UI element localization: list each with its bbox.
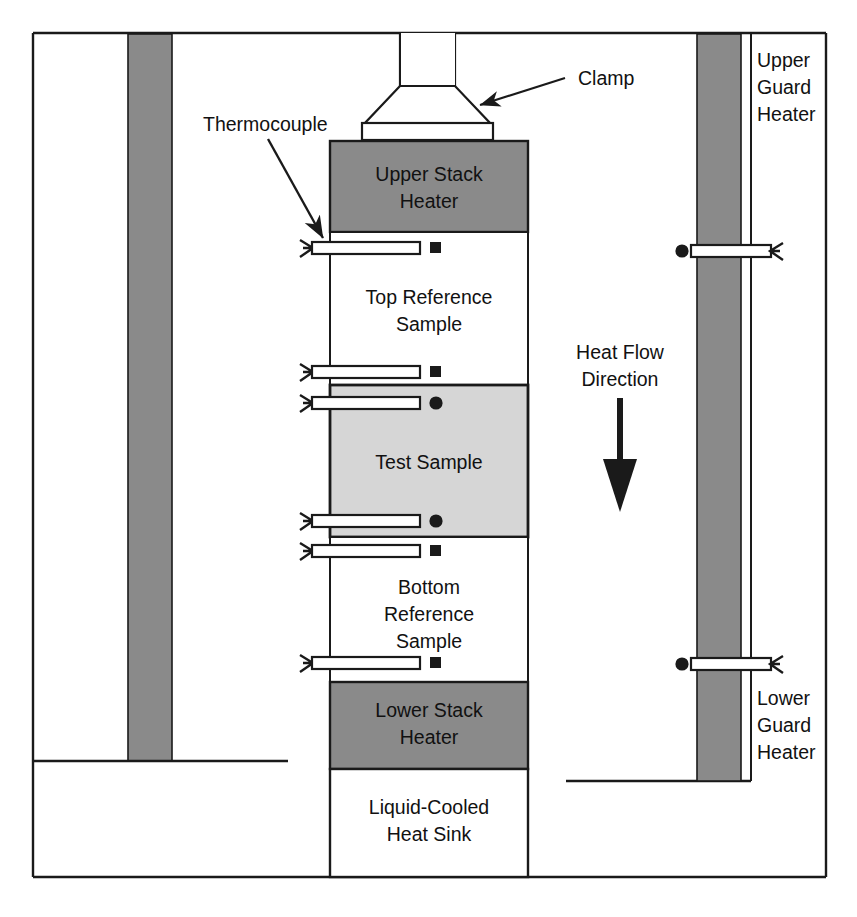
thermocouple-marker-square [430, 657, 441, 668]
thermocouple-tc-1 [300, 240, 441, 257]
thermocouple-marker-square [430, 366, 441, 377]
thermocouple-probe-body [691, 658, 771, 670]
upper-stack-heater-label-line1: Upper Stack [375, 163, 483, 185]
top-reference-sample-label-line2: Sample [396, 313, 462, 335]
heat-flow-label-line1: Heat Flow [576, 341, 665, 363]
lower-guard-heater-label: Lower Guard Heater [757, 687, 816, 763]
thermocouple-tc-guard-lower [675, 656, 783, 673]
lower-stack-heater-label-line1: Lower Stack [375, 699, 483, 721]
thermocouple-marker-circle [429, 514, 442, 527]
test-sample-label-line1: Test Sample [375, 451, 482, 473]
thermal-stack-diagram: Clamp Upper Stack Heater Top Reference S… [0, 0, 857, 917]
thermocouple-marker-square [430, 242, 441, 253]
upper-guard-heater-label-line3: Heater [757, 103, 816, 125]
thermocouple-probe-body [312, 657, 420, 669]
clamp-base-plate [362, 123, 493, 140]
thermocouple-tc-guard-upper [675, 243, 783, 260]
bottom-reference-sample-label-line1: Bottom [398, 576, 460, 598]
thermocouple-probe-body [312, 366, 420, 378]
thermocouple-probe-body [312, 397, 420, 409]
thermocouple-probe-body [312, 545, 420, 557]
clamp-shaft-fill [401, 33, 455, 86]
thermocouple-probe-body [312, 242, 420, 254]
thermocouple-label: Thermocouple [203, 113, 328, 135]
thermocouple-tc-6 [300, 655, 441, 672]
upper-guard-heater-label: Upper Guard Heater [757, 49, 816, 125]
thermocouple-probe-body [691, 245, 771, 257]
diagram-canvas: Clamp Upper Stack Heater Top Reference S… [0, 0, 857, 917]
upper-guard-heater-label-line1: Upper [757, 49, 811, 71]
block-upper-stack-heater [330, 141, 528, 232]
top-reference-sample-label-line1: Top Reference [366, 286, 493, 308]
thermocouple-tc-2 [300, 364, 441, 381]
thermocouple-marker-circle [675, 657, 688, 670]
clamp-label: Clamp [578, 67, 635, 89]
heat-flow-label-line2: Direction [582, 368, 659, 390]
heat-sink-label-line2: Heat Sink [387, 823, 472, 845]
bottom-reference-sample-label-line3: Sample [396, 630, 462, 652]
thermocouple-marker-circle [675, 244, 688, 257]
lower-guard-heater-label-line2: Guard [757, 714, 811, 736]
lower-guard-heater-label-line1: Lower [757, 687, 811, 709]
bottom-reference-sample-label-line2: Reference [384, 603, 474, 625]
upper-stack-heater-label-line2: Heater [400, 190, 459, 212]
left-guard-bar-body [128, 34, 172, 761]
thermocouple-marker-square [430, 545, 441, 556]
lower-stack-heater-label-line2: Heater [400, 726, 459, 748]
heat-flow-arrow-shaft [617, 398, 623, 464]
lower-guard-heater-label-line3: Heater [757, 741, 816, 763]
heat-sink-label-line1: Liquid-Cooled [369, 796, 489, 818]
thermocouple-tc-5 [300, 543, 441, 560]
upper-guard-heater-label-line2: Guard [757, 76, 811, 98]
thermocouple-marker-circle [429, 396, 442, 409]
thermocouple-probe-body [312, 515, 420, 527]
